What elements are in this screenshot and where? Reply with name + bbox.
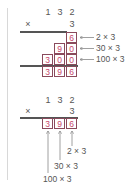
arrows-layer — [0, 0, 130, 186]
